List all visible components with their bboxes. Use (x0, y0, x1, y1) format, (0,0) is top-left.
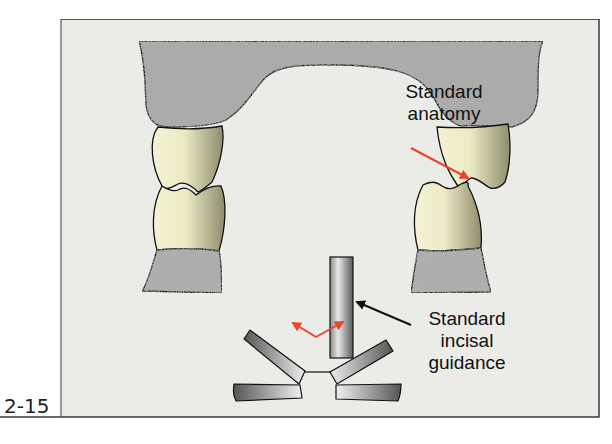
incisal-guide-table-base-left (233, 384, 302, 401)
label-standard-anatomy: Standard anatomy (384, 81, 504, 125)
label-anatomy-line1: Standard (384, 81, 504, 103)
label-guidance-line2: incisal (412, 330, 522, 352)
right-mandibular-bone (411, 248, 491, 293)
label-guidance-line1: Standard (412, 308, 522, 330)
incisal-guide-table-base-right (336, 384, 401, 401)
label-anatomy-line2: anatomy (384, 103, 504, 125)
left-lower-tooth (153, 186, 225, 251)
left-upper-tooth (152, 126, 223, 192)
incisal-guide-pin (330, 257, 353, 358)
figure-number: 2-15 (4, 394, 49, 418)
dental-diagram (0, 0, 612, 444)
right-lower-tooth (414, 182, 481, 251)
label-standard-incisal-guidance: Standard incisal guidance (412, 308, 522, 374)
label-guidance-line3: guidance (412, 352, 522, 374)
